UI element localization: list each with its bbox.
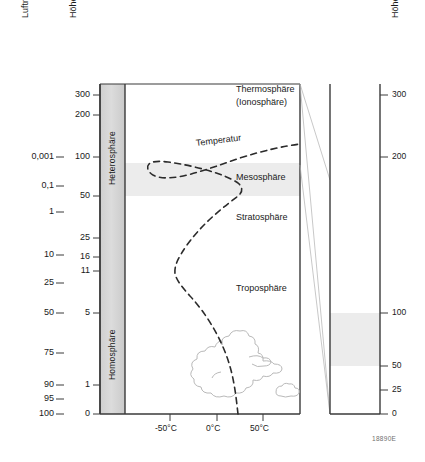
air-mass-tick-label: 95 [6,394,54,403]
height-tick-label: 50 [57,191,90,200]
air-mass-tick-label: 50 [6,308,54,317]
air-mass-tick-label: 100 [6,409,54,418]
air-mass-tick-label: 90 [6,380,54,389]
right-height-tick-label: 25 [392,385,401,394]
height-tick-label: 11 [57,266,90,275]
height-tick-label: 200 [57,110,90,119]
height-axis-ticks [93,95,100,414]
height-tick-label: 300 [57,90,90,99]
height-tick-label: 25 [57,233,90,242]
atmosphere-layers-diagram: Luftmasse (%) Höhe km Höhe km [0,0,425,462]
air-mass-tick-label: 10 [6,250,54,259]
layer-sublabel-ionosphere: (Ionosphäre) [236,98,287,107]
layer-label-stratosphere: Stratosphäre [236,213,288,222]
height-tick-label: 5 [57,308,90,317]
air-mass-tick-label: 75 [6,348,54,357]
layer-label-mesosphere: Mesosphäre [236,173,286,182]
air-mass-tick-label: 25 [6,278,54,287]
panel-connector-lines [300,84,330,414]
heterosphere-band-label: Heterosphäre [108,105,117,185]
right-height-tick-label: 100 [392,308,406,317]
height-tick-label: 16 [57,252,90,261]
air-mass-tick-label: 0,1 [6,181,54,190]
diagram-canvas [0,0,425,462]
layer-label-troposphere: Troposphäre [236,284,287,293]
right-height-tick-label: 200 [392,152,406,161]
temperature-tick-label: -50°C [155,424,177,433]
height-tick-label: 100 [57,152,90,161]
layer-label-thermosphere: Thermosphäre [236,85,295,94]
air-mass-tick-label: 0,001 [6,152,54,161]
right-height-axis-ticks [380,95,388,414]
temperature-axis-ticks [170,414,263,421]
right-height-tick-label: 50 [392,361,401,370]
height-tick-label: 1 [57,380,90,389]
temperature-tick-label: 0°C [206,424,220,433]
right-height-tick-label: 300 [392,90,406,99]
right-height-tick-label: 0 [392,409,397,418]
right-panel-highlight-band [330,313,380,366]
figure-code: 18890E [372,436,396,443]
temperature-tick-label: 50°C [250,424,269,433]
homosphere-band-label: Homosphäre [108,300,117,380]
air-mass-tick-label: 1 [6,207,54,216]
height-tick-label: 0 [57,409,90,418]
